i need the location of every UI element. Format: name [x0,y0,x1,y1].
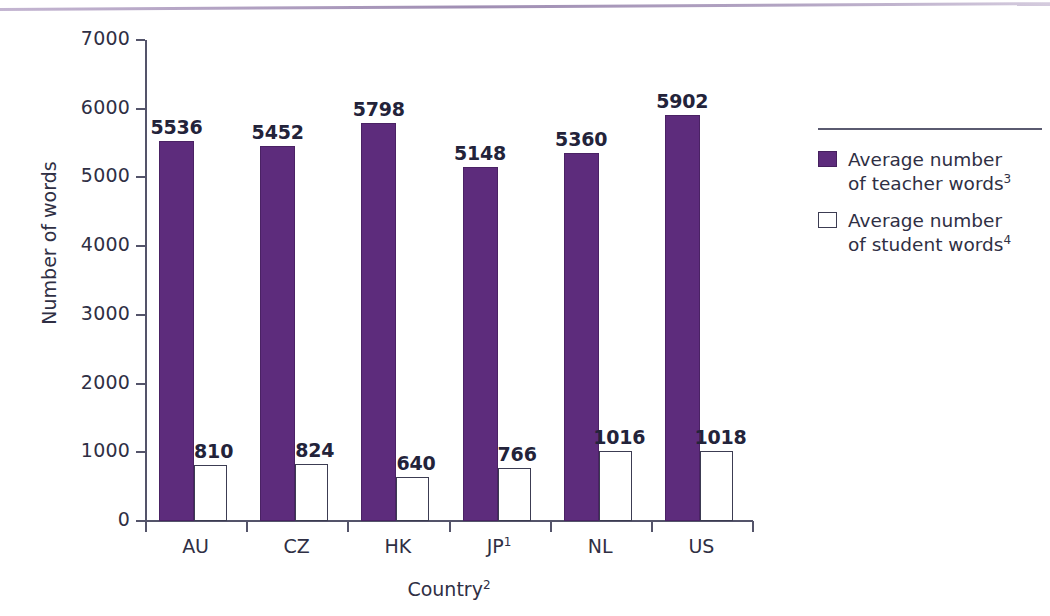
legend-swatch-filled [818,151,837,167]
y-axis-tick [136,520,145,522]
bar-value-label: 810 [194,440,233,462]
y-axis-tick-label: 2000 [56,371,130,393]
x-axis-title: Country2 [145,578,753,600]
category-label-superscript: 1 [504,535,512,549]
bar-student-cz: 824 [295,464,328,521]
bar-value-label: 5902 [656,90,708,112]
x-axis-category-label-cz: CZ [246,535,347,557]
x-axis-category-label-us: US [651,535,752,557]
y-axis-tick-label: 5000 [56,164,130,186]
bar-teacher-nl: 5360 [564,153,599,521]
category-label-text: US [688,535,714,557]
x-axis-tick [246,521,248,532]
legend-label: Average numberof student words4 [848,209,1011,256]
x-axis-tick [347,521,349,532]
legend-label-line1: Average number [848,210,1002,231]
y-axis-tick [136,176,145,178]
legend-label-line1: Average number [848,149,1002,170]
x-axis-category-label-au: AU [145,535,246,557]
y-axis-title: Number of words [38,128,60,358]
y-axis-tick-label: 1000 [56,439,130,461]
bar-value-label: 640 [396,452,435,474]
legend-label-line2: of student words [848,234,1003,255]
bar-value-label: 5536 [150,116,202,138]
category-label-text: NL [588,535,613,557]
legend-item-student-words: Average numberof student words4 [818,209,1044,256]
legend-label-superscript: 4 [1003,233,1011,247]
bar-value-label: 824 [295,439,334,461]
bar-teacher-us: 5902 [665,115,700,521]
bar-value-label: 1016 [593,426,645,448]
chart-legend: Average numberof teacher words3Average n… [818,128,1044,271]
grouped-bar-chart: 01000200030004000500060007000 AUCZHKJP1N… [0,0,1050,616]
x-axis-tick [550,521,552,532]
x-axis-tick [651,521,653,532]
bar-teacher-jp: 5148 [463,167,498,521]
bar-value-label: 1018 [694,426,746,448]
category-label-text: AU [182,535,209,557]
bar-student-jp: 766 [498,468,531,521]
x-axis-tick [752,521,754,532]
legend-divider [818,128,1042,130]
bar-value-label: 5148 [454,142,506,164]
x-axis-category-label-jp: JP1 [449,535,550,557]
x-axis-title-text: Country [407,578,482,600]
bar-value-label: 766 [498,443,537,465]
bar-value-label: 5360 [555,128,607,150]
y-axis-tick [136,108,145,110]
legend-swatch-hollow [818,212,837,228]
category-label-text: HK [385,535,412,557]
legend-items: Average numberof teacher words3Average n… [818,148,1044,257]
y-axis-tick-label: 3000 [56,302,130,324]
y-axis-tick [136,245,145,247]
bar-teacher-hk: 5798 [361,123,396,521]
bar-value-label: 5452 [252,121,304,143]
y-axis-tick-label: 0 [56,508,130,530]
x-axis-category-label-hk: HK [347,535,448,557]
bar-teacher-au: 5536 [159,141,194,521]
bar-student-us: 1018 [700,451,733,521]
plot-area: 5536810545282457986405148766536010165902… [145,40,752,521]
y-axis-tick-label: 7000 [56,27,130,49]
y-axis-tick-label: 6000 [56,96,130,118]
legend-label-line2: of teacher words [848,173,1004,194]
category-label-text: JP [487,535,504,557]
category-label-text: CZ [284,535,310,557]
y-axis-tick [136,39,145,41]
bar-student-au: 810 [194,465,227,521]
y-axis-tick [136,383,145,385]
legend-item-teacher-words: Average numberof teacher words3 [818,148,1044,195]
bar-teacher-cz: 5452 [260,146,295,521]
y-axis-tick-label: 4000 [56,233,130,255]
y-axis-tick [136,451,145,453]
x-axis-category-label-nl: NL [550,535,651,557]
x-axis-tick [449,521,451,532]
bar-student-nl: 1016 [599,451,632,521]
x-axis-title-superscript: 2 [483,578,491,592]
bar-student-hk: 640 [396,477,429,521]
x-axis-tick [145,521,147,532]
bar-value-label: 5798 [353,98,405,120]
legend-label: Average numberof teacher words3 [848,148,1011,195]
legend-label-superscript: 3 [1004,172,1012,186]
y-axis-tick [136,314,145,316]
